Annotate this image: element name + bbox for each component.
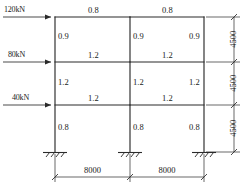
column-stiffness-storey3-left: 0.9 [58,32,69,41]
vertical-dimension-storey1: 4500 [229,108,238,148]
load-label-lower: 40kN [12,94,29,102]
column-stiffness-storey3-middle: 0.9 [133,32,144,41]
horizontal-dimension-bay-right: 8000 [130,166,204,175]
load-label-top: 120kN [4,6,25,14]
beam-stiffness-roof-left: 0.8 [88,6,99,15]
column-stiffness-storey1-right: 0.8 [189,123,200,132]
column-stiffness-storey2-left: 1.2 [58,78,69,87]
vertical-dimension-storey3: 4500 [229,19,238,59]
load-label-middle: 80kN [8,51,25,59]
load-arrows [3,17,51,105]
frame-geometry [0,0,250,192]
structural-frame-diagram: 120kN 80kN 40kN 0.8 0.8 0.9 0.9 0.9 1.2 … [0,0,250,192]
beam-stiffness-floor3-left: 1.2 [88,51,99,60]
horizontal-dimension-bay-left: 8000 [55,166,130,175]
beam-stiffness-floor3-right: 1.2 [162,51,173,60]
beam-stiffness-roof-right: 0.8 [162,6,173,15]
beam-stiffness-floor2-right: 1.2 [162,94,173,103]
column-stiffness-storey2-middle: 1.2 [133,78,144,87]
beam-stiffness-floor2-left: 1.2 [88,94,99,103]
columns [55,17,204,152]
column-stiffness-storey1-left: 0.8 [58,123,69,132]
supports [43,153,216,158]
column-stiffness-storey3-right: 0.9 [189,32,200,41]
column-stiffness-storey1-middle: 0.8 [133,123,144,132]
vertical-dimension-storey2: 4500 [229,63,238,103]
column-stiffness-storey2-right: 1.2 [189,78,200,87]
